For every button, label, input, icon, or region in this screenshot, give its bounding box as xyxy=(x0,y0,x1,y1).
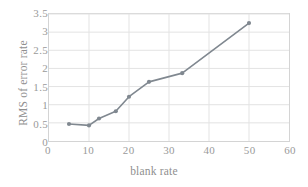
data-point-marker xyxy=(67,122,71,126)
x-axis-tick-label: 40 xyxy=(189,145,229,156)
y-axis-title: RMS of error rate xyxy=(17,19,29,147)
data-point-marker xyxy=(114,109,118,113)
x-axis-tick-label: 60 xyxy=(270,145,308,156)
data-point-marker xyxy=(147,80,151,84)
data-point-marker xyxy=(180,71,184,75)
line-chart: 00.511.522.533.5 RMS of error rate blank… xyxy=(0,0,308,187)
x-axis-tick-label: 30 xyxy=(149,145,189,156)
plot-area xyxy=(48,13,290,142)
series-layer xyxy=(49,14,289,141)
data-point-marker xyxy=(127,95,131,99)
data-point-marker xyxy=(87,123,91,127)
x-axis-tick-label: 0 xyxy=(28,145,68,156)
series-line xyxy=(69,23,249,125)
y-axis-tick-label: 3.5 xyxy=(4,8,48,19)
x-axis-tick-label: 10 xyxy=(68,145,108,156)
data-point-marker xyxy=(247,21,251,25)
x-axis-tick-label: 50 xyxy=(230,145,270,156)
data-point-marker xyxy=(97,116,101,120)
x-axis-tick-label: 20 xyxy=(109,145,149,156)
x-axis-title: blank rate xyxy=(0,165,308,177)
